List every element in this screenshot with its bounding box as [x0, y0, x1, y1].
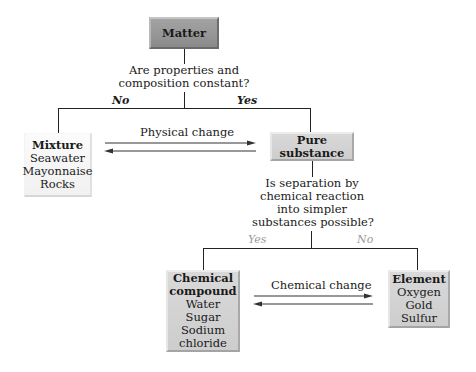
transition-arrows [0, 0, 476, 372]
arrowhead-right-icon [247, 141, 256, 146]
arrowhead-left-icon [253, 302, 262, 307]
arrowhead-left-icon [104, 149, 113, 154]
arrowhead-right-icon [364, 294, 373, 299]
